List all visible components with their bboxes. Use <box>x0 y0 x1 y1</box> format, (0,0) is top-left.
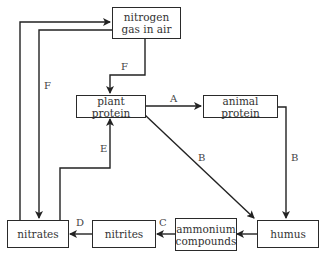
edge-label-a: A <box>170 93 177 104</box>
node-nitrogen-gas: nitrogen gas in air <box>112 7 181 39</box>
node-animal-protein: animal protein <box>203 95 278 118</box>
arrow-nitrates-to-plant <box>60 119 110 220</box>
node-humus: humus <box>257 220 319 248</box>
node-plant-protein: plant protein <box>76 95 146 118</box>
arrow-animal-to-humus <box>278 107 286 218</box>
edge-label-c: C <box>159 217 167 228</box>
node-ammonium-line1: ammonium <box>176 223 235 235</box>
node-nitrogen-gas-line1: nitrogen <box>124 11 169 23</box>
node-animal-protein-label: animal protein <box>204 95 277 119</box>
node-humus-label: humus <box>270 228 306 240</box>
node-nitrites: nitrites <box>92 220 156 248</box>
node-ammonium-compounds: ammonium compounds <box>175 218 237 251</box>
edge-label-e: E <box>100 143 107 154</box>
arrow-nitrogen-to-nitrates <box>39 30 112 218</box>
edge-label-f-nitrates: F <box>44 80 51 91</box>
node-ammonium-line2: compounds <box>176 235 237 247</box>
node-nitrates-label: nitrates <box>17 228 58 240</box>
edge-label-b-plant: B <box>198 152 205 163</box>
edge-label-b-animal: B <box>291 152 298 163</box>
edge-label-f-plant: F <box>121 61 128 72</box>
node-plant-protein-label: plant protein <box>77 95 145 119</box>
arrow-nitrates-to-nitrogen <box>20 22 110 220</box>
node-nitrogen-gas-line2: gas in air <box>122 23 172 35</box>
arrow-plant-to-humus <box>145 115 254 218</box>
edge-label-d: D <box>76 217 84 228</box>
node-nitrates: nitrates <box>7 220 69 248</box>
node-nitrites-label: nitrites <box>105 228 144 240</box>
